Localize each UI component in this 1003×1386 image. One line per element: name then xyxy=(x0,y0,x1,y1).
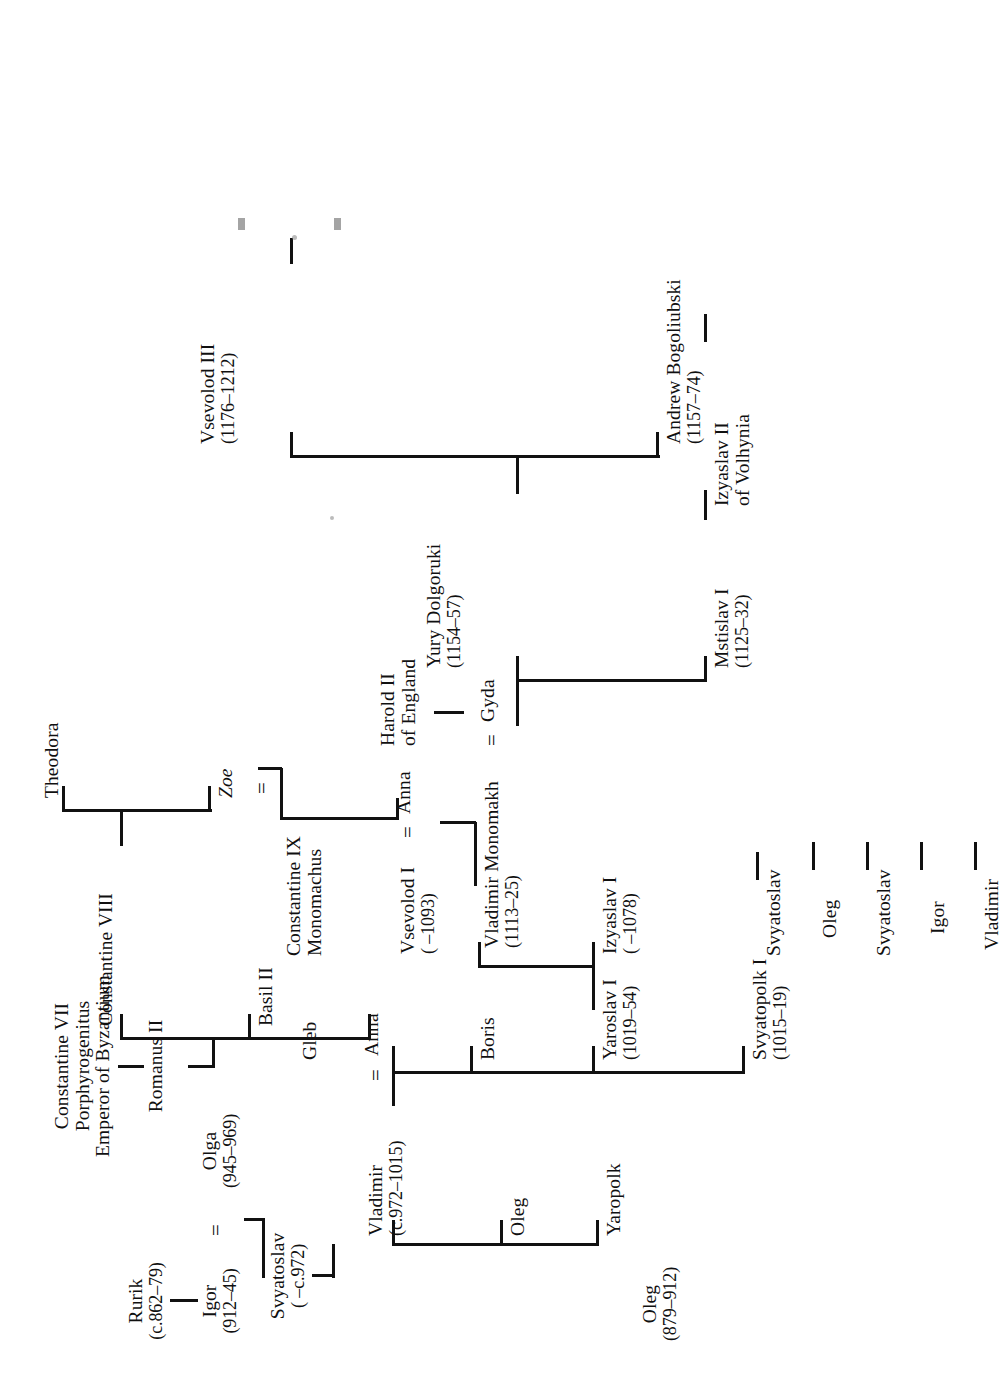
tick-boris xyxy=(470,1046,473,1074)
node-izyaslav-i-dates: ( –1078) xyxy=(621,818,640,954)
bracket-constantine-viii-children xyxy=(62,809,212,812)
node-of-england-label: of England xyxy=(399,586,420,746)
connector-constantine-ix-to-anna xyxy=(280,817,398,820)
node-harold-ii-name: Harold II xyxy=(378,586,399,746)
connector-anna-monomakh-in xyxy=(396,798,399,820)
spine-svyatoslav-to-children xyxy=(332,1244,335,1278)
connector-to-svyatoslav xyxy=(262,1218,265,1278)
node-svyatoslav-c: Svyatoslav xyxy=(874,824,895,956)
bracket-monomakh-children xyxy=(516,679,706,682)
tick-gleb xyxy=(392,1046,395,1074)
node-oleg-son-name: Oleg xyxy=(508,1148,529,1236)
node-constantine-ix: Constantine IX Monomachus xyxy=(284,706,325,956)
connector-harold-gyda xyxy=(434,711,464,714)
bracket-vladimir-children xyxy=(392,1071,744,1074)
node-svyatoslav-dates: ( –c.972) xyxy=(289,1210,308,1342)
node-constantine-viii-name: Constantine VIII xyxy=(96,806,117,1026)
node-boris: Boris xyxy=(478,974,499,1060)
connector-monomakh-children xyxy=(516,680,519,726)
tick-zoe xyxy=(208,786,211,812)
connector-constantine-ix-drop xyxy=(258,767,282,770)
node-vsevolod-iii: Vsevolod III (1176–1212) xyxy=(198,268,238,444)
node-anna-byz-name: Anna xyxy=(362,978,383,1056)
node-rurik-name: Rurik xyxy=(126,1238,147,1364)
node-svyatoslav-b-name: Svyatoslav xyxy=(764,826,785,956)
bracket-svyatoslav-sons xyxy=(392,1243,598,1246)
bracket-yury-children xyxy=(290,455,660,458)
node-vladimir-b: Vladimir xyxy=(982,824,1003,950)
node-oleg-regent: Oleg (879–912) xyxy=(640,1244,680,1364)
node-izyaslav-i: Izyaslav I ( –1078) xyxy=(600,818,640,954)
node-monomachus-label: Monomachus xyxy=(305,706,326,956)
node-izyaslav-ii-name: Izyaslav II xyxy=(712,340,733,506)
node-olga-dates: (945–969) xyxy=(221,1088,240,1214)
node-mstislav-i-name: Mstislav I xyxy=(712,518,733,668)
tick-yaroslav-i xyxy=(592,1046,595,1074)
node-porphyrogenitus-label: Porphyrogenitus xyxy=(73,926,94,1206)
node-basil-ii-name: Basil II xyxy=(256,906,277,1026)
node-vladimir-monomakh-dates: (1113–25) xyxy=(503,738,522,948)
node-mstislav-i: Mstislav I (1125–32) xyxy=(712,518,752,668)
node-izyaslav-i-name: Izyaslav I xyxy=(600,818,621,954)
tick-izyaslav-i xyxy=(592,942,595,968)
connector-vsevolod-iii-continuation xyxy=(290,238,293,264)
tick-andrew-bogoliubski xyxy=(656,432,659,458)
connector-to-vladimir-monomakh xyxy=(474,822,477,886)
connector-yury-children xyxy=(516,456,519,494)
node-andrew-bogoliubski-name: Andrew Bogoliubski xyxy=(664,214,685,444)
connector-izyaslav-ii-continuation xyxy=(704,314,707,342)
connector-mstislav-izyaslav-ii xyxy=(704,490,707,520)
node-basil-ii: Basil II xyxy=(256,906,277,1026)
node-andrew-bogoliubski: Andrew Bogoliubski (1157–74) xyxy=(664,214,704,444)
marriage-monomakh-gyda: = xyxy=(482,734,503,746)
node-olga: Olga (945–969) xyxy=(200,1088,240,1214)
node-igor-dates: (912–45) xyxy=(221,1240,240,1362)
node-gyda-name: Gyda xyxy=(478,644,499,722)
connector-chain-2 xyxy=(866,842,869,870)
tick-yury-dolgoruki xyxy=(516,656,519,682)
node-vladimir-b-name: Vladimir xyxy=(982,824,1003,950)
node-vladimir-i-dates: (c.972–1015) xyxy=(387,1086,406,1236)
page-edge-mark-upper xyxy=(238,218,245,230)
node-vsevolod-iii-name: Vsevolod III xyxy=(198,268,219,444)
tick-svyatopolk-i xyxy=(742,1046,745,1074)
bracket-romanus-children xyxy=(120,1037,370,1040)
node-vsevolod-i-dates: ( –1093) xyxy=(419,818,438,954)
node-anna-byz: Anna xyxy=(362,978,383,1056)
marriage-vsevolod-anna: = xyxy=(398,826,419,838)
tick-mstislav-i xyxy=(704,656,707,682)
node-igor-b-name: Igor xyxy=(928,838,949,934)
node-andrew-bogoliubski-dates: (1157–74) xyxy=(685,214,704,444)
node-izyaslav-ii-detail: of Volhynia xyxy=(733,340,754,506)
node-vsevolod-iii-dates: (1176–1212) xyxy=(219,268,238,444)
tick-anna-byz xyxy=(368,1014,371,1040)
bracket-yaroslav-children xyxy=(478,965,594,968)
connector-vsevolod-anna-drop xyxy=(440,821,476,824)
connector-vladimir-marriage xyxy=(392,1074,395,1106)
node-olga-name: Olga xyxy=(200,1088,221,1214)
node-igor-b: Igor xyxy=(928,838,949,934)
node-yaropolk: Yaropolk xyxy=(604,1126,625,1236)
node-vladimir-monomakh-name: Vladimir Monomakh xyxy=(482,738,503,948)
connector-izyaslav-line-1 xyxy=(756,852,759,880)
node-oleg-b-name: Oleg xyxy=(820,842,841,938)
node-yury-dolgoruki-dates: (1154–57) xyxy=(445,490,464,668)
connector-yaroslav-children xyxy=(592,966,595,1010)
connector-constantine-viii-children xyxy=(120,810,123,846)
node-oleg-regent-name: Oleg xyxy=(640,1244,661,1364)
node-zoe: Zoe xyxy=(216,728,237,798)
node-rurik: Rurik (c.862–79) xyxy=(126,1238,166,1364)
node-constantine-vii-name: Constantine VII xyxy=(52,926,73,1206)
page-speck-a xyxy=(292,235,297,240)
node-oleg-b: Oleg xyxy=(820,842,841,938)
node-gleb-name: Gleb xyxy=(300,978,321,1060)
tick-vsevolod-iii xyxy=(290,432,293,458)
node-yaropolk-name: Yaropolk xyxy=(604,1126,625,1236)
node-vsevolod-i-name: Vsevolod I xyxy=(398,818,419,954)
node-romanus-ii-name: Romanus II xyxy=(146,978,167,1154)
node-constantine-ix-name: Constantine IX xyxy=(284,706,305,956)
connector-igor-olga-drop xyxy=(244,1218,264,1221)
node-theodora-name: Theodora xyxy=(42,678,63,798)
